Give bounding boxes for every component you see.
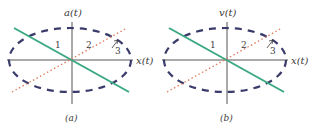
caption: (a) (65, 113, 78, 123)
x-axis-label: x(t) (136, 55, 154, 66)
panel-b: v(t) x(t) 1 2 3 (b) (156, 0, 312, 129)
region-label-1: 1 (210, 40, 216, 50)
panel-a: a(t) x(t) 1 2 3 (a) (0, 0, 156, 129)
y-axis-label: v(t) (219, 7, 237, 18)
x-axis-label: x(t) (291, 55, 309, 66)
region-label-3: 3 (115, 46, 121, 56)
phase-diagram-b: v(t) x(t) 1 2 3 (b) (156, 0, 313, 129)
region-label-2: 2 (86, 40, 92, 50)
region-label-1: 1 (55, 40, 61, 50)
region-label-2: 2 (241, 40, 247, 50)
region-label-3: 3 (270, 46, 276, 56)
phase-diagram-a: a(t) x(t) 1 2 3 (a) (0, 0, 156, 129)
caption: (b) (220, 113, 233, 123)
y-axis-label: a(t) (64, 7, 82, 18)
